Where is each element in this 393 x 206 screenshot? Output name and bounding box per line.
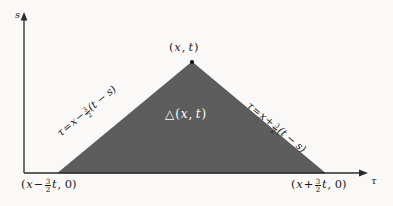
- vright-var: x: [296, 177, 303, 191]
- apex-tau-var: x: [174, 40, 181, 54]
- vright-fraction: 32: [315, 178, 321, 194]
- s-axis-arrowhead-icon: [21, 12, 28, 21]
- tau-axis-arrowhead-icon: [359, 170, 368, 177]
- apex-comma: ,: [181, 40, 189, 54]
- vright-suffix: , 0): [327, 177, 348, 191]
- vleft-operator: −: [33, 177, 44, 191]
- vright-t-var: t: [322, 177, 327, 191]
- apex-close-paren: ): [193, 40, 199, 54]
- vright-denominator: 2: [315, 186, 321, 194]
- triangle-glyph-icon: △: [165, 107, 174, 121]
- vleft-denominator: 2: [45, 186, 51, 194]
- vleft-suffix: , 0): [57, 177, 78, 191]
- region-s-var: t: [196, 107, 201, 121]
- s-axis-label: s: [15, 10, 20, 20]
- vleft-fraction: 32: [45, 178, 51, 194]
- region-comma: ,: [188, 107, 196, 121]
- vright-operator: +: [303, 177, 314, 191]
- vleft-t-var: t: [52, 177, 57, 191]
- vertex-left-label: (x−32t, 0): [20, 178, 77, 194]
- region-close-paren: ): [201, 107, 208, 121]
- vleft-var: x: [26, 177, 33, 191]
- region-tau-var: x: [181, 107, 188, 121]
- apex-dot-marker: [190, 60, 194, 64]
- diagram-canvas: [0, 0, 393, 206]
- apex-point-label: (x, t): [168, 42, 200, 54]
- tau-axis-label: τ: [371, 176, 377, 186]
- vertex-right-label: (x+32t, 0): [290, 178, 347, 194]
- region-open-paren: (: [174, 107, 181, 121]
- characteristic-triangle-figure: s τ (x, t) △(x, t) (x−32t, 0) (x+32t, 0)…: [0, 0, 393, 206]
- region-label: △(x, t): [165, 108, 207, 120]
